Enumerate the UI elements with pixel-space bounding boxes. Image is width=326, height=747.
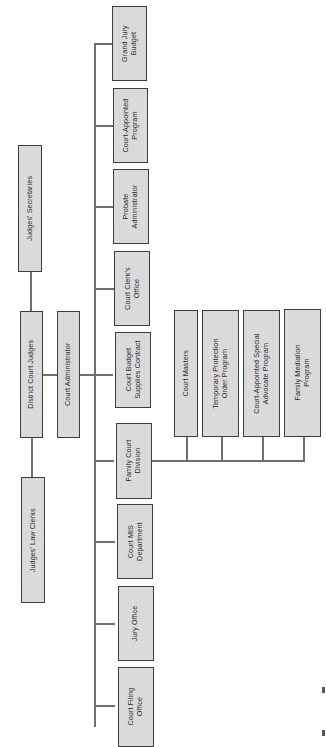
connector-judges-administrator [43,374,57,376]
branch-court-appointed [94,125,113,127]
node-district-court-judges: District Court Judges [20,311,43,438]
node-label: Court Administrator [64,343,73,406]
node-label: Temporary Protection Order Program [212,338,229,408]
page-edge-mark [322,687,325,693]
node-jury-office: Jury Office [118,586,154,661]
node-judges-law-clerks: Judges' Law Clerks [21,477,45,603]
node-court-masters: Court Masters [174,310,198,437]
node-label: Court-Appointed Program [122,99,139,153]
drop-court-masters [186,437,188,461]
branch-family-court [96,460,114,462]
node-grand-jury-budget: Grand Jury Budget [112,6,147,81]
node-label: Court Filing Office [127,688,144,726]
node-label: Probate Administrator [122,185,139,229]
node-court-appointed-program: Court-Appointed Program [113,88,148,163]
node-court-clerks-office: Court Clerk's Office [114,251,150,326]
node-court-filing-office: Court Filing Office [118,667,154,747]
node-court-budget-supplies: Court Budget Supplies Contract [115,332,151,408]
node-probate-administrator: Probate Administrator [113,169,149,244]
connector-judges-law-clerks [31,438,33,477]
branch-clerks-office [95,288,114,290]
node-label: District Court Judges [27,340,36,409]
node-temporary-protection-order: Temporary Protection Order Program [202,310,239,437]
branch-filing-office [96,705,115,707]
node-label: Court Clerk's Office [123,267,140,310]
node-label: Court Masters [182,350,191,396]
branch-jury-office [96,623,115,625]
node-label: Court MIS Department [126,522,143,561]
node-family-mediation-program: Family Mediation Program [284,309,321,437]
drop-casa [262,437,264,461]
node-label: Jury Office [132,606,141,641]
node-court-mis-department: Court MIS Department [117,504,153,579]
node-court-appointed-special-advocate: Court-Appointed Special Advocate Program [243,310,280,437]
node-label: Grand Jury Budget [121,25,138,62]
node-label: Court-Appointed Special Advocate Program [253,333,270,413]
branch-mis [96,541,115,543]
node-family-court-division: Family Court Division [116,423,152,499]
connector-administrator-trunk [80,374,113,376]
node-judges-secretaries: Judges' Secretaries [18,145,42,272]
connector-secretaries-judges [30,272,32,311]
node-label: Court Budget Supplies Contract [124,341,141,399]
node-label: Judges' Law Clerks [29,508,38,572]
node-court-administrator: Court Administrator [57,311,80,438]
node-label: Judges' Secretaries [26,176,35,241]
drop-mediation [303,437,305,461]
connector-family-programs [152,460,305,462]
branch-probate [95,206,113,208]
node-label: Family Court Division [125,440,142,482]
page-edge-mark [322,730,325,736]
node-label: Family Mediation Program [294,345,311,401]
drop-tpo [221,437,223,461]
branch-grand-jury [94,43,112,45]
